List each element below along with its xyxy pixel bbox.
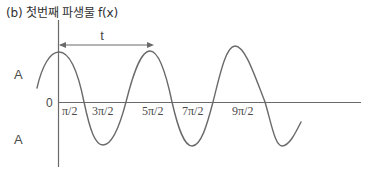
tick-label: 9π/2 bbox=[232, 104, 253, 118]
origin-label: 0 bbox=[46, 96, 53, 110]
tick-label: 3π/2 bbox=[92, 104, 113, 118]
wave-curve bbox=[37, 46, 301, 146]
period-label: t bbox=[100, 28, 104, 43]
amplitude-top-label: A bbox=[14, 67, 23, 82]
amplitude-bottom-label: A bbox=[14, 132, 23, 147]
tick-label: 5π/2 bbox=[142, 104, 163, 118]
wave-diagram: t A A 0 π/2 3π/2 5π/2 7π/2 9π/2 bbox=[0, 0, 373, 172]
tick-label: 7π/2 bbox=[182, 104, 203, 118]
period-arrow bbox=[59, 42, 154, 48]
tick-label: π/2 bbox=[62, 104, 77, 118]
